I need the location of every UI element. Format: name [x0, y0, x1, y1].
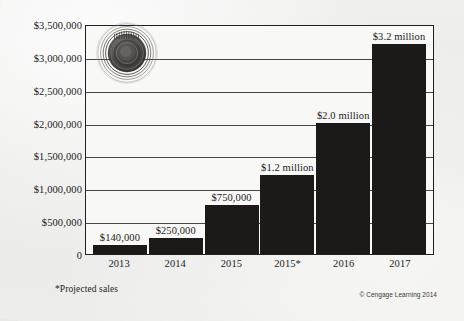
bar-value-label: $750,000: [211, 192, 251, 203]
plot-area: $140,000$250,000$750,000$1.2 million$2.0…: [85, 25, 434, 255]
bar-value-label: $3.2 million: [373, 31, 426, 42]
y-axis-tick-5: $2,500,000: [34, 85, 82, 96]
bar-value-label: $2.0 million: [317, 110, 370, 121]
bar-cell: $2.0 million: [315, 26, 371, 254]
bar-cell: $140,000: [92, 26, 148, 254]
x-axis-tick-2016: 2016: [316, 258, 372, 274]
bar-2015[interactable]: [205, 205, 259, 254]
bar-value-label: $250,000: [156, 225, 196, 236]
bar-2016[interactable]: [316, 123, 370, 254]
bar-2015-projected[interactable]: [260, 175, 314, 254]
bar-value-label: $1.2 million: [261, 162, 314, 173]
bar-cell: $3.2 million: [371, 26, 427, 254]
x-axis-tick-2017: 2017: [372, 258, 428, 274]
y-axis-tick-6: $3,000,000: [34, 52, 82, 63]
bar-cell: $1.2 million: [259, 26, 315, 254]
bar-cell: $250,000: [148, 26, 204, 254]
y-axis-tick-3: $1,500,000: [34, 151, 82, 162]
chart-figure: 0$500,000$1,000,000$1,500,000$2,000,000$…: [0, 0, 464, 321]
y-axis-tick-2: $1,000,000: [34, 184, 82, 195]
copyright-notice: © Cengage Learning 2014: [360, 291, 438, 298]
x-axis-tick-2014: 2014: [147, 258, 203, 274]
bar-cell: $750,000: [204, 26, 260, 254]
y-axis-tick-4: $2,000,000: [34, 118, 82, 129]
x-axis-tick-labels: 2013201420152015*20162017: [85, 258, 434, 274]
y-axis-tick-0: 0: [77, 250, 82, 261]
y-axis-tick-7: $3,500,000: [34, 20, 82, 31]
bar-2013[interactable]: [93, 245, 147, 254]
y-axis-tick-labels: 0$500,000$1,000,000$1,500,000$2,000,000$…: [0, 0, 82, 321]
bar-value-label: $140,000: [100, 232, 140, 243]
footnote-projected-sales: *Projected sales: [55, 284, 118, 294]
x-axis-tick-2015-projected: 2015*: [260, 258, 316, 274]
bar-2017[interactable]: [372, 44, 426, 254]
bar-series: $140,000$250,000$750,000$1.2 million$2.0…: [86, 26, 433, 254]
x-axis-tick-2013: 2013: [91, 258, 147, 274]
x-axis-tick-2015: 2015: [203, 258, 259, 274]
y-axis-tick-1: $500,000: [42, 217, 82, 228]
bar-2014[interactable]: [149, 238, 203, 254]
